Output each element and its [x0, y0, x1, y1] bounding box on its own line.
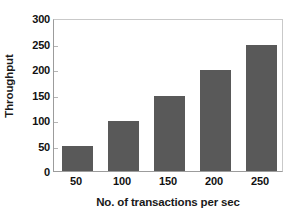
- bar-chart-figure: Throughput 050100150200250300 5010015020…: [0, 0, 297, 216]
- bar: [246, 45, 277, 171]
- y-tick-mark: [54, 122, 58, 123]
- plot-area: [53, 19, 283, 172]
- x-tick-label: 50: [53, 176, 99, 187]
- y-tick-label: 300: [16, 14, 50, 25]
- bar: [200, 70, 231, 171]
- y-tick-mark: [54, 71, 58, 72]
- y-tick-label: 0: [16, 167, 50, 178]
- x-tick-label: 150: [145, 176, 191, 187]
- bar: [108, 121, 139, 171]
- y-tick-mark: [54, 97, 58, 98]
- y-tick-mark: [54, 148, 58, 149]
- y-tick-mark: [54, 46, 58, 47]
- x-axis-title: No. of transactions per sec: [53, 196, 283, 208]
- bars-layer: [54, 20, 282, 171]
- bar: [154, 96, 185, 171]
- y-tick-label: 150: [16, 90, 50, 101]
- x-axis-tick-labels: 50100150200250: [53, 176, 283, 192]
- y-tick-label: 250: [16, 39, 50, 50]
- x-tick-label: 200: [191, 176, 237, 187]
- y-tick-label: 200: [16, 65, 50, 76]
- x-tick-label: 250: [237, 176, 283, 187]
- y-tick-label: 50: [16, 141, 50, 152]
- y-axis-tick-labels: 050100150200250300: [16, 19, 50, 172]
- y-axis-title-text: Throughput: [3, 54, 15, 118]
- x-tick-label: 100: [99, 176, 145, 187]
- y-tick-label: 100: [16, 116, 50, 127]
- bar: [62, 146, 93, 171]
